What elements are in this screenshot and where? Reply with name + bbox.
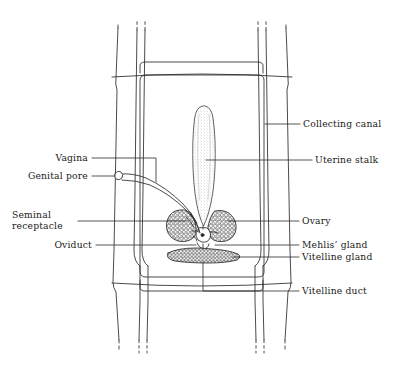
label-uterine-stalk: Uterine stalk	[315, 154, 378, 165]
leader-vitelline-duct	[203, 262, 299, 291]
collecting-canal-right	[255, 20, 269, 353]
label-oviduct: Oviduct	[0, 239, 92, 250]
label-collecting-canal: Collecting canal	[303, 118, 381, 129]
label-ovary: Ovary	[302, 215, 331, 226]
label-seminal-receptacle: Seminal receptacle	[0, 209, 86, 231]
uterine-stalk-organ	[193, 106, 216, 226]
ovary-lobe-right	[208, 210, 236, 241]
label-vitelline-duct: Vitelline duct	[302, 285, 367, 296]
body-wall-right	[285, 22, 291, 352]
vitelline-gland-band	[167, 244, 239, 263]
label-vagina: Vagina	[0, 152, 88, 163]
figure-canvas: Collecting canal Uterine stalk Ovary Meh…	[0, 0, 400, 371]
label-vitelline-gland: Vitelline gland	[302, 251, 373, 262]
label-mehlis-gland: Mehlis’ gland	[302, 239, 368, 250]
genital-pore-notch	[115, 171, 123, 179]
collecting-canal-left	[134, 20, 148, 353]
body-wall-left	[113, 22, 119, 352]
label-genital-pore: Genital pore	[0, 170, 88, 181]
anatomical-diagram	[0, 0, 400, 371]
